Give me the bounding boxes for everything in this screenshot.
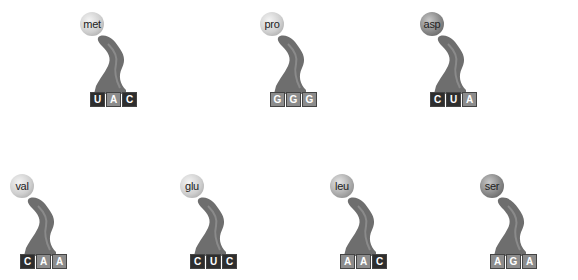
amino-acid-label: pro — [265, 18, 280, 30]
nucleotide-base: A — [490, 254, 505, 269]
amino-acid-ball: glu — [180, 174, 204, 198]
nucleotide-base: A — [340, 254, 355, 269]
amino-acid-label: val — [15, 180, 28, 192]
nucleotide-base: G — [506, 254, 521, 269]
amino-acid-ball: asp — [420, 12, 444, 36]
amino-acid-ball: ser — [480, 174, 504, 198]
nucleotide-base: A — [462, 92, 477, 107]
nucleotide-base: C — [122, 92, 137, 107]
nucleotide-base: G — [286, 92, 301, 107]
anticodon: C U A — [430, 92, 477, 107]
nucleotide-base: C — [20, 254, 35, 269]
nucleotide-base: A — [356, 254, 371, 269]
nucleotide-base: A — [522, 254, 537, 269]
amino-acid-label: ser — [485, 180, 499, 192]
trna-leu: leu A A C — [328, 172, 388, 272]
trna-glu: glu C U C — [178, 172, 238, 272]
anticodon: A A C — [340, 254, 387, 269]
amino-acid-ball: leu — [330, 174, 354, 198]
anticodon: C A A — [20, 254, 67, 269]
nucleotide-base: A — [52, 254, 67, 269]
trna-asp: asp C U A — [418, 10, 478, 110]
amino-acid-ball: met — [80, 12, 104, 36]
nucleotide-base: U — [90, 92, 105, 107]
amino-acid-label: glu — [185, 180, 199, 192]
nucleotide-base: A — [36, 254, 51, 269]
nucleotide-base: A — [106, 92, 121, 107]
anticodon: C U C — [190, 254, 237, 269]
trna-pro: pro G G G — [258, 10, 318, 110]
anticodon: A G A — [490, 254, 537, 269]
nucleotide-base: C — [190, 254, 205, 269]
nucleotide-base: C — [430, 92, 445, 107]
nucleotide-base: C — [372, 254, 387, 269]
trna-val: val C A A — [8, 172, 68, 272]
nucleotide-base: U — [206, 254, 221, 269]
amino-acid-label: leu — [335, 180, 349, 192]
amino-acid-ball: pro — [260, 12, 284, 36]
nucleotide-base: G — [302, 92, 317, 107]
nucleotide-base: G — [270, 92, 285, 107]
trna-met: met U A C — [78, 10, 138, 110]
trna-ser: ser A G A — [478, 172, 538, 272]
amino-acid-label: asp — [424, 18, 441, 30]
nucleotide-base: C — [222, 254, 237, 269]
anticodon: G G G — [270, 92, 317, 107]
amino-acid-label: met — [83, 18, 100, 30]
amino-acid-ball: val — [10, 174, 34, 198]
anticodon: U A C — [90, 92, 137, 107]
nucleotide-base: U — [446, 92, 461, 107]
